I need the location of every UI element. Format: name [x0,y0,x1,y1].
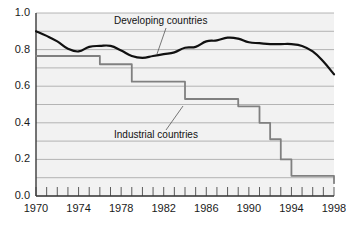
chart-figure: 1.00.80.60.40.20.0 197019741978198219861… [0,0,346,233]
x-axis-tick-label: 1994 [279,202,303,214]
y-axis-tick-label: 0.6 [15,79,30,91]
developing-annotation-label: Developing countries [114,15,207,26]
line-chart: 1.00.80.60.40.20.0 197019741978198219861… [0,0,346,233]
y-axis-tick-label: 0.2 [15,152,30,164]
x-axis-tick-label: 1978 [109,202,133,214]
y-axis-tick-label: 1.0 [15,6,30,18]
industrial-annotation-label: Industrial countries [114,129,198,140]
x-axis-tick-label: 1982 [151,202,175,214]
x-axis-tick-label: 1998 [322,202,346,214]
y-axis-tick-label: 0.4 [15,116,30,128]
y-axis-tick-label: 0.8 [15,43,30,55]
x-axis-tick-label: 1970 [24,202,48,214]
x-axis-tick-label: 1986 [194,202,218,214]
x-axis-tick-label: 1974 [66,202,90,214]
y-axis-tick-label: 0.0 [15,189,30,201]
x-axis-tick-label: 1990 [237,202,261,214]
